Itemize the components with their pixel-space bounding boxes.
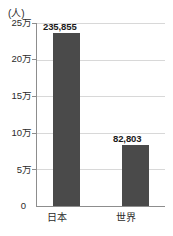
bar-world: [122, 145, 149, 206]
value-label-japan: 235,855: [43, 21, 77, 32]
category-label-japan: 日本: [43, 212, 70, 224]
bar-chart: (人) 25万 20万 15万 10万 5万 0 235,855 82,803 …: [0, 0, 173, 236]
plot-area: [37, 23, 165, 206]
y-tick-label-250000: 25万: [0, 18, 32, 28]
y-tick-label-100000: 10万: [0, 128, 32, 138]
axis-baseline: [37, 206, 165, 207]
category-label-world: 世界: [112, 212, 139, 224]
value-label-world: 82,803: [113, 133, 141, 144]
y-tick-label-0: 0: [0, 201, 26, 211]
y-tick-label-200000: 20万: [0, 54, 32, 64]
bar-japan: [53, 33, 80, 206]
y-tick-label-150000: 15万: [0, 91, 32, 101]
y-tick-label-50000: 5万: [0, 165, 32, 175]
